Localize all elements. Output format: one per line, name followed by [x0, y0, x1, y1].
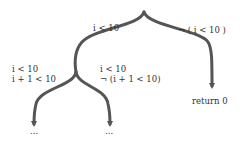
edge-label-left-left-line1: i < 10 [12, 64, 38, 74]
leaf-left-right: ... [105, 126, 113, 136]
leaf-right-return: return 0 [192, 96, 228, 106]
edge-label-left-right-line1: i < 10 [100, 64, 126, 74]
leaf-left-left: ... [30, 126, 38, 136]
edge-label-left-right-line2: ¬ (i + 1 < 10) [100, 74, 160, 84]
edge-label-root-left: i < 10 [93, 23, 119, 33]
edge-root-left [75, 12, 144, 72]
execution-tree-diagram: i < 10 ¬ ( i < 10 ) i < 10 i + 1 < 10 i … [0, 0, 240, 143]
edge-label-left-left-line2: i + 1 < 10 [12, 74, 56, 84]
edge-label-root-right: ¬ ( i < 10 ) [178, 25, 226, 35]
